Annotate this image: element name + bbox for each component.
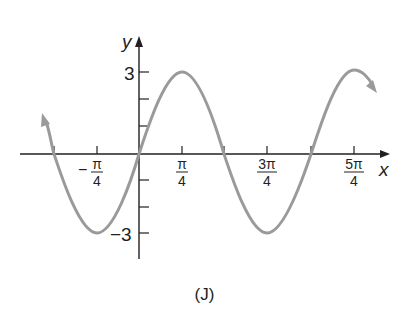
x-tick-den-3pi-4: 4 [263, 173, 271, 189]
y-axis-arrow-icon [135, 36, 143, 47]
y-tick-label-neg3: −3 [110, 224, 132, 245]
curve-right-arrow-icon [366, 80, 377, 93]
y-tick-label-3: 3 [124, 63, 135, 84]
x-tick-num-5pi-4: 5π [345, 156, 363, 172]
x-tick-num-3pi-4: 3π [258, 156, 276, 172]
sine-graph: y x 3 −3 − π 4 π 4 3π 4 5π 4 [0, 0, 409, 328]
x-tick-den-5pi-4: 4 [350, 173, 358, 189]
x-tick-num-neg-pi-4: π [92, 156, 102, 172]
x-tick-den-pi-4: 4 [178, 173, 186, 189]
x-tick-den-neg-pi-4: 4 [93, 173, 101, 189]
x-ticks [54, 146, 354, 154]
sine-curve [46, 70, 373, 233]
figure-caption: (J) [0, 285, 409, 305]
y-axis-label: y [120, 31, 133, 52]
x-tick-num-pi-4: π [177, 156, 187, 172]
x-axis-label: x [378, 159, 390, 180]
x-axis-arrow-icon [380, 150, 390, 158]
x-tick-sign: − [78, 161, 87, 178]
